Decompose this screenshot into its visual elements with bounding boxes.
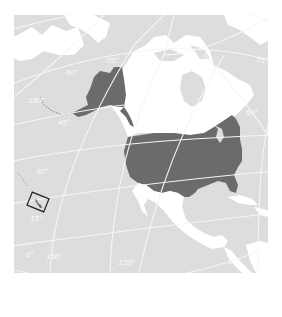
label-lon-90: 90° [228, 257, 241, 266]
label-lat-75: 75° [106, 56, 119, 65]
label-lon-180: 180° [28, 96, 45, 105]
label-lat-45: 45° [58, 118, 71, 127]
label-lon-60: 60° [246, 108, 259, 117]
label-lat-75-east: 75° [256, 56, 268, 65]
label-lat-60: 60° [66, 68, 79, 77]
label-lat-0: 0° [26, 250, 34, 259]
map-frame: 75° 60° 180° 45° 30° 15° 0° 150° 120° 90… [14, 15, 268, 273]
label-lon-120: 120° [118, 258, 135, 267]
map-canvas: 75° 60° 180° 45° 30° 15° 0° 150° 120° 90… [14, 15, 268, 273]
label-lat-30: 30° [36, 167, 49, 176]
label-lon-150: 150° [46, 252, 63, 261]
label-lat-15: 15° [30, 214, 43, 223]
